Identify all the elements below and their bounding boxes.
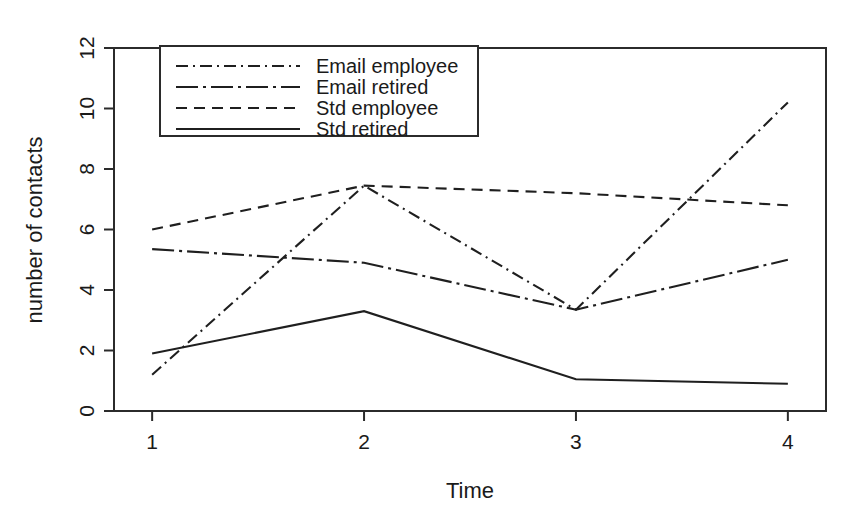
line-chart: 024681012 1234 Time number of contacts E… [0,0,852,527]
legend-label-std-retired: Std retired [316,118,408,140]
legend-label-email-retired: Email retired [316,76,428,98]
x-axis-tick-labels: 1234 [146,430,794,453]
x-tick-label: 4 [782,430,794,453]
data-series-group [152,102,788,383]
y-tick-label: 10 [75,97,98,120]
y-tick-label: 2 [75,345,98,357]
y-tick-label: 6 [75,224,98,236]
y-axis-tick-labels: 024681012 [75,36,98,417]
x-tick-label: 3 [570,430,582,453]
x-axis-ticks [152,411,788,421]
x-tick-label: 2 [358,430,370,453]
y-axis-ticks [104,48,114,411]
y-tick-label: 0 [75,405,98,417]
series-line-std-retired [152,311,788,384]
series-line-email-retired [152,249,788,310]
chart-figure: 024681012 1234 Time number of contacts E… [0,0,852,527]
legend-label-std-employee: Std employee [316,97,438,119]
chart-legend: Email employeeEmail retiredStd employeeS… [160,46,478,140]
series-line-std-employee [152,186,788,230]
y-tick-label: 4 [75,284,98,296]
y-axis-title: number of contacts [22,136,47,323]
legend-label-email-employee: Email employee [316,55,458,77]
y-tick-label: 12 [75,36,98,59]
y-tick-label: 8 [75,163,98,175]
x-tick-label: 1 [146,430,158,453]
x-axis-title: Time [446,478,494,503]
